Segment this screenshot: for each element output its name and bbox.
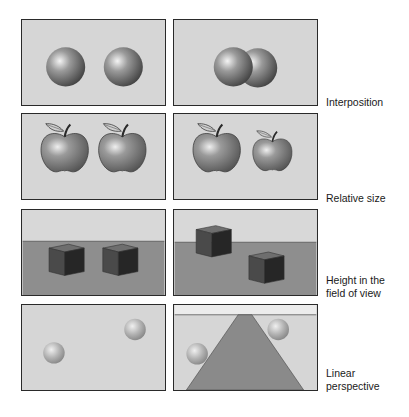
row-label-height: Height in the field of view	[326, 274, 385, 300]
row-label-interposition: Interposition	[326, 96, 383, 109]
cube-high-icon	[196, 226, 231, 257]
height-panel-varied	[173, 209, 318, 296]
ball-far-icon	[124, 319, 145, 340]
cube-low-icon	[249, 252, 284, 283]
relative-size-panel-different	[173, 113, 318, 200]
perspective-panel-plain	[21, 304, 166, 391]
interposition-panel-overlap	[173, 19, 318, 106]
sphere-icon	[46, 47, 85, 86]
apple-icon	[99, 124, 146, 172]
cube-icon	[103, 244, 138, 275]
row-label-height-line2: field of view	[326, 287, 385, 300]
ball-near-icon	[43, 342, 64, 363]
cube-icon	[49, 244, 84, 275]
ball-far-icon	[267, 319, 288, 340]
relative-size-panel-equal	[21, 113, 166, 200]
ball-near-icon	[186, 343, 207, 364]
height-panel-level	[21, 209, 166, 296]
row-label-perspective-line1: Linear	[326, 367, 380, 380]
row-label-height-line1: Height in the	[326, 274, 385, 287]
apple-small-icon	[253, 131, 292, 171]
row-label-linear-perspective: Linear perspective	[326, 367, 380, 393]
row-label-perspective-line2: perspective	[326, 380, 380, 393]
apple-icon	[41, 124, 88, 172]
apple-large-icon	[193, 124, 240, 172]
sphere-icon	[104, 47, 143, 86]
interposition-panel-separate	[21, 19, 166, 106]
sphere-front-icon	[214, 47, 253, 86]
row-label-relative-size: Relative size	[326, 192, 386, 205]
perspective-panel-road	[173, 304, 318, 391]
